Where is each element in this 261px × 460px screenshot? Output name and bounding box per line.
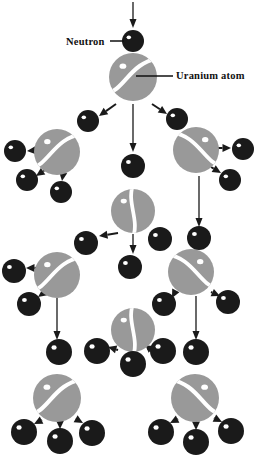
neutron-specular-highlight <box>221 296 226 300</box>
motion-arrow <box>130 234 137 254</box>
uranium-specular-highlight <box>121 199 127 204</box>
neutron <box>187 226 211 250</box>
uranium-specular-highlight <box>202 137 208 142</box>
uranium-specular-highlight <box>44 385 51 390</box>
arrow-head <box>130 245 137 254</box>
neutron <box>47 428 73 454</box>
arrow-head <box>193 331 200 340</box>
neutron-specular-highlight <box>153 233 158 237</box>
neutron <box>219 169 241 191</box>
neutron-specular-highlight <box>89 344 94 348</box>
neutron-specular-highlight <box>237 143 241 147</box>
arrow-head <box>223 144 232 152</box>
motion-arrow <box>34 417 43 424</box>
motion-arrow <box>130 104 137 152</box>
neutron <box>148 227 172 251</box>
uranium-specular-highlight <box>197 259 203 264</box>
uranium-label-text: Uranium atom <box>176 70 245 81</box>
motion-arrow <box>99 104 116 116</box>
arrow-head <box>158 106 167 114</box>
neutron-specular-highlight <box>192 232 197 236</box>
neutron-specular-highlight <box>171 113 175 117</box>
motion-arrow <box>99 231 118 239</box>
neutron-specular-highlight <box>157 298 162 302</box>
motion-arrow <box>213 415 222 422</box>
uranium-atom <box>164 249 218 295</box>
arrow-head <box>130 143 137 152</box>
neutron <box>118 255 142 279</box>
neutron <box>74 231 98 255</box>
arrow-head <box>196 218 203 227</box>
motion-arrow <box>130 2 137 28</box>
neutron-specular-highlight <box>155 344 160 348</box>
uranium-atom <box>167 374 223 422</box>
neutron <box>232 138 254 160</box>
arrow-head <box>130 19 137 28</box>
motion-arrow <box>152 104 167 114</box>
neutron-specular-highlight <box>22 298 27 302</box>
neutron <box>79 420 105 446</box>
neutron-specular-highlight <box>188 345 193 349</box>
neutron-specular-highlight <box>52 434 57 438</box>
neutron-specular-highlight <box>153 425 158 429</box>
neutron <box>148 419 174 445</box>
neutron-specular-highlight <box>16 425 21 429</box>
neutron <box>150 338 176 364</box>
arrow-shaft <box>211 292 212 293</box>
motion-arrow <box>196 176 203 227</box>
neutron <box>152 292 176 316</box>
neutron <box>120 351 146 377</box>
arrow-head <box>99 231 108 239</box>
neutron <box>216 290 240 314</box>
neutron <box>122 30 144 52</box>
neutron-specular-highlight <box>7 265 12 269</box>
arrow-shaft <box>211 167 214 169</box>
neutron <box>11 419 37 445</box>
neutron <box>84 338 110 364</box>
neutron-specular-highlight <box>79 237 84 241</box>
fission-diagram: NeutronUranium atom <box>0 0 261 460</box>
arrow-shaft <box>152 104 160 109</box>
uranium-atom <box>169 127 223 173</box>
arrow-head <box>99 108 108 116</box>
uranium-atom <box>30 252 84 298</box>
uranium-atom <box>111 185 155 237</box>
uranium-specular-highlight <box>201 385 208 390</box>
arrow-head <box>192 422 200 431</box>
neutron-specular-highlight <box>224 174 228 178</box>
neutron-specular-highlight <box>51 345 56 349</box>
neutron <box>17 292 41 316</box>
uranium-specular-highlight <box>44 262 50 267</box>
neutron-specular-highlight <box>21 174 25 178</box>
arrow-shaft <box>107 233 118 235</box>
motion-arrow <box>193 296 200 340</box>
neutron-specular-highlight <box>82 115 86 119</box>
motion-arrow <box>74 415 83 423</box>
neutron-specular-highlight <box>84 426 89 430</box>
neutron <box>166 108 188 130</box>
uranium-specular-highlight <box>121 318 127 323</box>
fission-chain-reaction-svg: NeutronUranium atom <box>0 0 261 460</box>
arrow-shaft <box>116 349 118 350</box>
neutron <box>218 418 244 444</box>
neutron-label-text: Neutron <box>66 36 105 47</box>
neutron <box>121 154 145 178</box>
uranium-atom <box>30 129 84 175</box>
neutron <box>183 429 209 455</box>
motion-arrow <box>211 165 221 173</box>
motion-arrow <box>54 298 61 340</box>
neutron <box>183 339 209 365</box>
neutron <box>77 110 99 132</box>
neutron <box>4 140 26 162</box>
neutron-specular-highlight <box>125 357 130 361</box>
neutron <box>46 339 72 365</box>
neutron-label: Neutron <box>66 36 124 47</box>
neutron-specular-highlight <box>126 160 131 164</box>
neutron <box>16 169 38 191</box>
uranium-atom <box>29 374 85 422</box>
neutron <box>50 181 72 203</box>
motion-arrow <box>192 422 200 431</box>
neutron-specular-highlight <box>188 435 193 439</box>
neutron-specular-highlight <box>55 186 59 190</box>
arrow-shaft <box>106 104 116 111</box>
